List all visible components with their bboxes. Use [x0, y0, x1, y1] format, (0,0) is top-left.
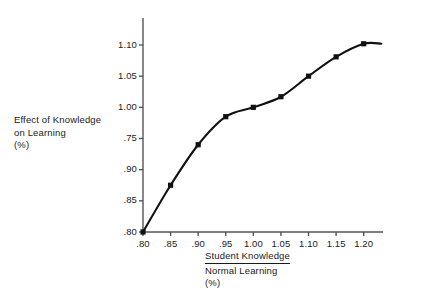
data-point-marker: [196, 142, 201, 147]
data-point-marker: [168, 183, 173, 188]
x-axis-title-unit: (%): [205, 277, 290, 290]
y-axis-tick-label: .90: [97, 163, 137, 174]
y-axis-tick-label: 1.00: [97, 101, 137, 112]
data-line-curve: [143, 43, 381, 232]
data-point-marker: [361, 41, 366, 46]
x-axis-tick-label: 1.20: [344, 238, 384, 249]
data-point-marker: [278, 94, 283, 99]
data-point-marker: [140, 229, 145, 234]
chart-figure: Effect of Knowledge on Learning (%) .80.…: [0, 0, 438, 302]
y-axis-tick-label: .85: [97, 194, 137, 205]
data-point-markers: [140, 41, 366, 234]
x-axis-title-denominator: Normal Learning: [205, 264, 290, 277]
data-point-marker: [334, 54, 339, 59]
data-point-marker: [223, 114, 228, 119]
y-axis-tick-label: .75: [97, 132, 137, 143]
data-point-marker: [251, 105, 256, 110]
y-axis-tick-label: 1.05: [97, 70, 137, 81]
x-axis-title: Student Knowledge Normal Learning (%): [205, 250, 290, 290]
y-axis-tick-label: .80: [97, 226, 137, 237]
y-axis-tick-label: 1.10: [97, 39, 137, 50]
x-axis-title-numerator: Student Knowledge: [205, 250, 290, 264]
data-point-marker: [306, 74, 311, 79]
